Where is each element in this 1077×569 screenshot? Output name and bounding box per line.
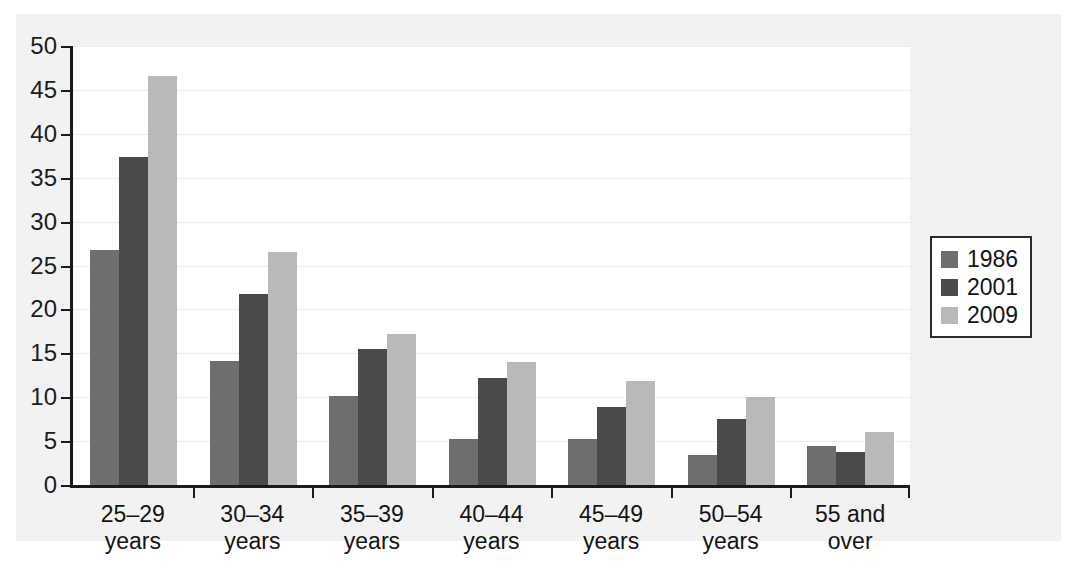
x-axis-category-label: 40–44 years [432, 501, 552, 555]
bar[interactable] [329, 396, 358, 485]
y-axis-tick [61, 266, 70, 268]
bar[interactable] [90, 250, 119, 485]
chart-figure: 05101520253035404550 25–29 years30–34 ye… [16, 14, 1061, 541]
x-axis-category-label: 55 and over [790, 501, 910, 555]
bar[interactable] [688, 455, 717, 485]
legend-swatch-icon [941, 251, 958, 268]
bar[interactable] [597, 407, 626, 485]
bar-group [449, 46, 536, 485]
y-axis-label: 30 [30, 210, 57, 234]
x-axis-category-label: 45–49 years [551, 501, 671, 555]
bar[interactable] [358, 349, 387, 485]
y-axis-line [70, 46, 73, 488]
y-axis-tick [61, 485, 70, 487]
bar[interactable] [239, 294, 268, 485]
legend-item-label: 1986 [967, 248, 1018, 271]
bar-group [90, 46, 177, 485]
legend-swatch-icon [941, 279, 958, 296]
legend-item-label: 2009 [967, 304, 1018, 327]
bar-group [210, 46, 297, 485]
x-axis-tick [193, 488, 195, 498]
bar[interactable] [387, 334, 416, 485]
y-axis-label: 10 [30, 385, 57, 409]
chart-legend: 198620012009 [930, 236, 1032, 338]
y-axis-label: 50 [30, 34, 57, 58]
bar[interactable] [746, 397, 775, 485]
bar[interactable] [119, 157, 148, 485]
bar[interactable] [836, 452, 865, 485]
bar[interactable] [478, 378, 507, 485]
x-axis-tick [551, 488, 553, 498]
bar[interactable] [807, 446, 836, 486]
bar[interactable] [865, 432, 894, 485]
y-axis-tick [61, 397, 70, 399]
legend-item-label: 2001 [967, 276, 1018, 299]
bar[interactable] [626, 381, 655, 485]
y-axis-label: 40 [30, 122, 57, 146]
y-axis-label: 20 [30, 297, 57, 321]
x-axis-tick [432, 488, 434, 498]
bar[interactable] [148, 76, 177, 485]
plot-panel: 05101520253035404550 25–29 years30–34 ye… [70, 46, 910, 488]
bar[interactable] [507, 362, 536, 485]
y-axis-tick [61, 353, 70, 355]
y-axis-tick [61, 222, 70, 224]
bar[interactable] [210, 361, 239, 485]
legend-item[interactable]: 1986 [941, 245, 1018, 273]
bar-group [329, 46, 416, 485]
x-axis-tick [790, 488, 792, 498]
y-axis-label: 35 [30, 166, 57, 190]
x-axis-tick [671, 488, 673, 498]
y-axis-label: 45 [30, 78, 57, 102]
y-axis-tick [61, 309, 70, 311]
legend-item[interactable]: 2009 [941, 301, 1018, 329]
x-axis-line [70, 485, 910, 488]
bar[interactable] [717, 419, 746, 485]
y-axis-label: 5 [44, 429, 57, 453]
y-axis-label: 25 [30, 254, 57, 278]
y-axis-label: 0 [44, 473, 57, 497]
y-axis-tick [61, 90, 70, 92]
bar[interactable] [449, 439, 478, 485]
x-axis-tick [908, 488, 910, 498]
bar-group [568, 46, 655, 485]
x-axis-category-label: 30–34 years [193, 501, 313, 555]
bar-group [807, 46, 894, 485]
bar[interactable] [268, 252, 297, 485]
y-axis-tick [61, 134, 70, 136]
y-axis-tick [61, 441, 70, 443]
y-axis-tick [61, 178, 70, 180]
x-axis-category-label: 50–54 years [671, 501, 791, 555]
x-axis-tick [312, 488, 314, 498]
bar[interactable] [568, 439, 597, 485]
legend-swatch-icon [941, 307, 958, 324]
x-axis-category-label: 25–29 years [73, 501, 193, 555]
legend-item[interactable]: 2001 [941, 273, 1018, 301]
y-axis-tick [61, 46, 70, 48]
x-axis-category-label: 35–39 years [312, 501, 432, 555]
y-axis-label: 15 [30, 341, 57, 365]
plot-area [70, 46, 910, 488]
bar-group [688, 46, 775, 485]
